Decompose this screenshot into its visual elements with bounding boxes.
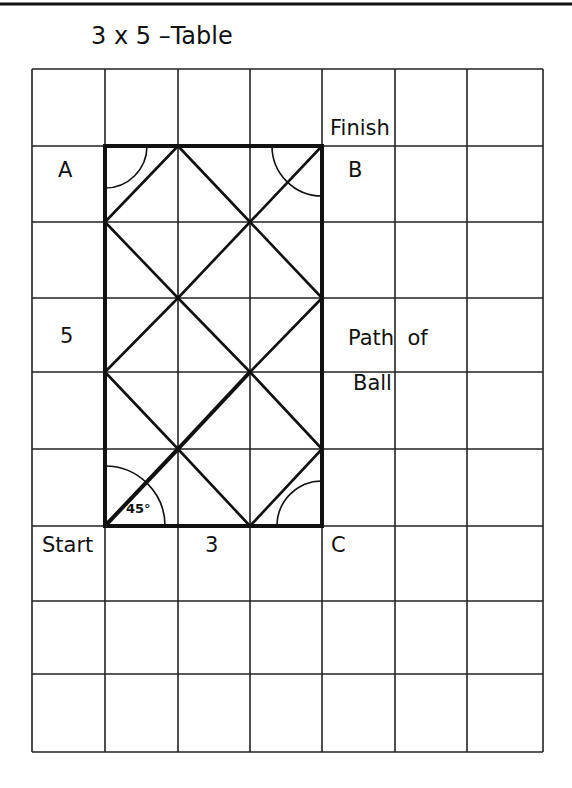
ball-path-segment <box>250 146 322 222</box>
ball-path-segment <box>250 298 322 372</box>
ball-path-segment <box>178 146 250 222</box>
path-label-line1: Path of <box>348 328 428 349</box>
ball-path-segment <box>178 222 250 298</box>
angle-arc-a <box>105 146 147 188</box>
ball-path-segment <box>105 146 178 222</box>
ball-path-segment <box>250 449 322 526</box>
ball-path <box>105 146 322 526</box>
ball-path-segment <box>105 298 178 372</box>
ball-path-segment <box>250 372 322 449</box>
ball-path-segment <box>178 449 250 526</box>
corner-a-label: A <box>58 160 72 181</box>
ball-path-initial-segment <box>178 372 250 449</box>
ball-path-segment <box>178 298 250 372</box>
finish-label: Finish <box>330 118 390 139</box>
height-value-label: 5 <box>60 326 73 347</box>
start-label: Start <box>42 535 93 556</box>
ball-path-segment <box>105 222 178 298</box>
corner-c-label: C <box>331 535 346 556</box>
ball-path-segment <box>105 372 178 449</box>
billiard-diagram <box>0 0 572 788</box>
width-value-label: 3 <box>205 535 218 556</box>
diagram-title: 3 x 5 –Table <box>91 24 233 48</box>
angle-label: 45° <box>126 502 151 515</box>
ball-path-segment <box>250 222 322 298</box>
corner-b-label: B <box>348 160 362 181</box>
angle-arc-c <box>277 481 322 526</box>
path-label-line2: Ball <box>353 373 392 394</box>
